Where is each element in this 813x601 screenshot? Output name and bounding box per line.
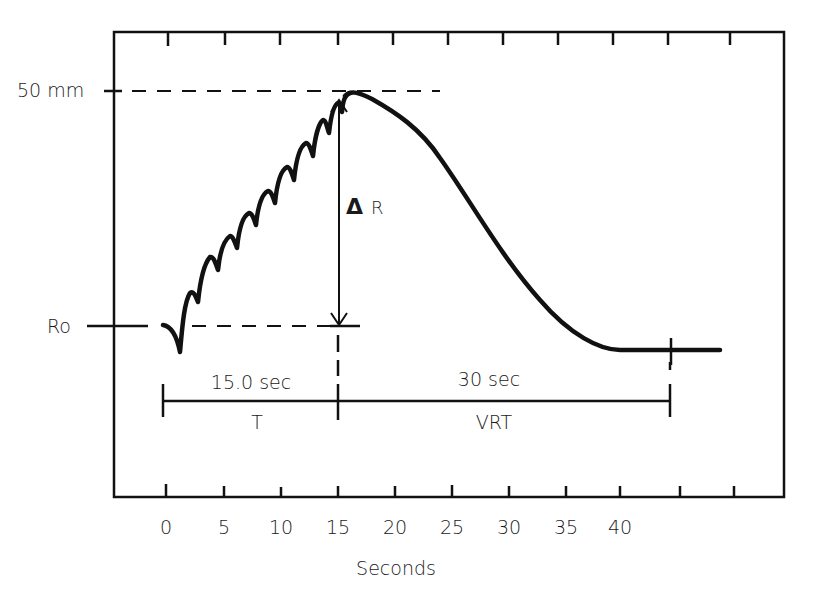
interval-vrt-label: VRT <box>476 413 512 432</box>
interval-t-label: T <box>251 413 263 432</box>
y-markers <box>87 91 148 326</box>
x-tick-label: 20 <box>383 518 407 537</box>
x-tick-label: 15 <box>326 518 350 537</box>
chart-canvas <box>0 0 813 601</box>
y-label-50mm: 50 mm <box>17 81 84 100</box>
bottom-ticks <box>166 484 734 497</box>
x-tick-label: 35 <box>554 518 578 537</box>
x-tick-label: 40 <box>608 518 632 537</box>
x-tick-label: 30 <box>497 518 521 537</box>
trace-decay-phase <box>345 92 720 350</box>
x-tick-label: 5 <box>218 518 230 537</box>
x-tick-label: 0 <box>160 518 172 537</box>
delta-r-arrow <box>331 100 347 325</box>
delta-r-label: R <box>371 199 384 217</box>
x-axis-title: Seconds <box>356 559 436 578</box>
delta-symbol: Δ <box>346 196 363 218</box>
interval-vrt-duration: 30 sec <box>458 370 520 389</box>
interval-t-duration: 15.0 sec <box>211 373 291 392</box>
trace-rising-phase <box>163 93 350 352</box>
x-tick-label: 25 <box>440 518 464 537</box>
y-label-ro: Ro <box>47 317 71 336</box>
top-ticks <box>168 32 730 46</box>
x-tick-label: 10 <box>269 518 293 537</box>
